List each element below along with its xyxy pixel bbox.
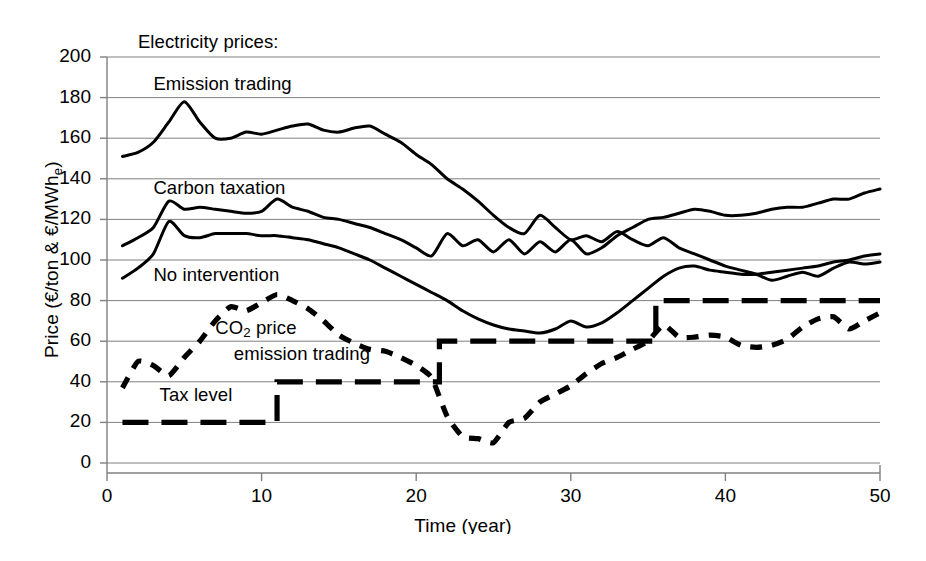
emission-trading-co2-label: emission trading xyxy=(234,343,370,365)
chart-plot-area xyxy=(0,0,926,561)
emission-trading-label: Emission trading xyxy=(153,73,291,95)
y-tick-label-160: 160 xyxy=(31,126,91,148)
y-tick-label-60: 60 xyxy=(31,329,91,351)
x-tick-label-50: 50 xyxy=(850,485,910,507)
chart-figure: Price (€/ton & €/MWhe) Time (year) 02040… xyxy=(0,0,926,561)
co2-price-label: CO2 price xyxy=(215,317,296,340)
carbon-taxation-label: Carbon taxation xyxy=(153,177,285,199)
y-tick-label-20: 20 xyxy=(31,410,91,432)
x-tick-label-10: 10 xyxy=(232,485,292,507)
no-intervention-label: No intervention xyxy=(153,264,279,286)
x-tick-label-40: 40 xyxy=(695,485,755,507)
y-tick-label-200: 200 xyxy=(31,45,91,67)
y-tick-label-0: 0 xyxy=(31,451,91,473)
y-tick-label-140: 140 xyxy=(31,167,91,189)
y-tick-label-80: 80 xyxy=(31,289,91,311)
x-tick-label-0: 0 xyxy=(77,485,137,507)
y-tick-label-40: 40 xyxy=(31,370,91,392)
x-tick-label-20: 20 xyxy=(386,485,446,507)
y-tick-label-100: 100 xyxy=(31,248,91,270)
bottom-white-strip xyxy=(0,534,926,561)
x-tick-label-30: 30 xyxy=(541,485,601,507)
y-tick-label-120: 120 xyxy=(31,207,91,229)
y-tick-label-180: 180 xyxy=(31,86,91,108)
tax-level-label: Tax level xyxy=(160,384,233,406)
electricity-prices-heading: Electricity prices: xyxy=(138,31,279,53)
